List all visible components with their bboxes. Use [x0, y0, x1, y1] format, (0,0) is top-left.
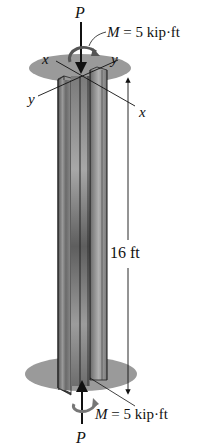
bottom-force-label: P [75, 429, 86, 446]
axis-y-left-label: y [26, 91, 35, 107]
top-moment-leader [89, 32, 106, 46]
left-flange-face [58, 80, 71, 390]
column-diagram: P M = 5 kip·ft x y y x 16 ft M = 5 kip·f… [0, 0, 216, 448]
top-moment-label: M = 5 kip·ft [106, 24, 181, 40]
axis-y-top-label: y [109, 51, 118, 67]
axis-x-top-label: x [41, 51, 49, 67]
wide-flange-column [58, 67, 107, 395]
bottom-moment-label: M = 5 kip·ft [94, 406, 169, 422]
right-flange [90, 70, 107, 380]
axis-x-right-label: x [138, 104, 146, 120]
top-force-label: P [74, 4, 85, 21]
length-label: 16 ft [110, 244, 140, 261]
